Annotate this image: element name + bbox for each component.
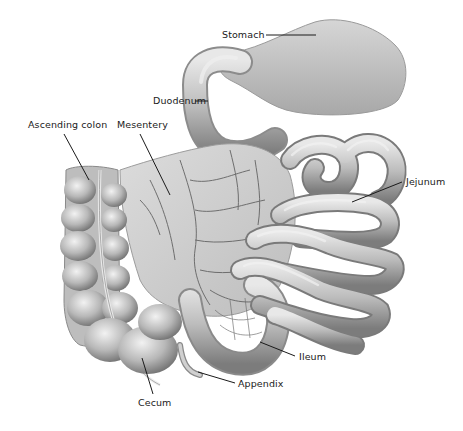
label-cecum: Cecum xyxy=(138,398,171,408)
anatomy-diagram: Stomach Duodenum Ascending colon Mesente… xyxy=(0,0,463,431)
label-mesentery: Mesentery xyxy=(117,120,168,130)
label-appendix: Appendix xyxy=(238,379,284,389)
label-jejunum: Jejunum xyxy=(406,177,445,187)
label-ascending-colon: Ascending colon xyxy=(28,120,107,130)
label-stomach: Stomach xyxy=(222,30,265,40)
intestine-illustration xyxy=(0,0,463,431)
label-ileum: Ileum xyxy=(299,352,326,362)
label-duodenum: Duodenum xyxy=(153,96,206,106)
